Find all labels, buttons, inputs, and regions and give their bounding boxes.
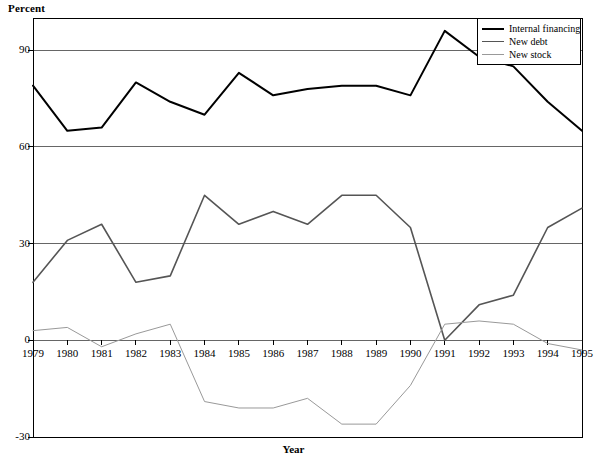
- legend-item-internal-financing: Internal financing: [482, 22, 576, 35]
- x-axis-title: Year: [0, 443, 587, 455]
- y-tick-label-60: 60: [0, 140, 30, 152]
- y-axis-title: Percent: [8, 2, 45, 14]
- legend-swatch-new-debt: [482, 41, 504, 42]
- y-tick-label-30: 30: [0, 237, 30, 249]
- legend-item-new-stock: New stock: [482, 48, 576, 61]
- series-line-new-debt: [33, 195, 582, 340]
- legend-swatch-new-stock: [482, 54, 504, 55]
- legend-item-new-debt: New debt: [482, 35, 576, 48]
- plot-frame: [33, 18, 582, 437]
- series-line-new-stock: [33, 321, 582, 424]
- x-tick-label-1995: 1995: [562, 347, 598, 359]
- y-tick-label-90: 90: [0, 43, 30, 55]
- axes-group: [33, 18, 582, 437]
- legend-label-internal-financing: Internal financing: [509, 23, 580, 35]
- data-series-group: [33, 31, 582, 424]
- y-tick-label--30: -30: [0, 430, 30, 442]
- chart-legend: Internal financing New debt New stock: [477, 18, 581, 65]
- legend-label-new-debt: New debt: [509, 36, 548, 48]
- legend-swatch-internal-financing: [482, 28, 504, 30]
- gridlines-group: [33, 50, 582, 340]
- y-tick-label-0: 0: [0, 333, 30, 345]
- legend-label-new-stock: New stock: [509, 49, 552, 61]
